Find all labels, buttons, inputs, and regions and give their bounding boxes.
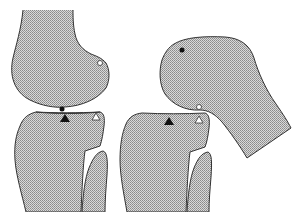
femur-extension <box>12 10 109 107</box>
filled-circle-marker <box>60 107 65 112</box>
open-circle-marker <box>98 61 103 66</box>
extension-panel <box>12 10 109 212</box>
fibula-extension <box>82 151 107 212</box>
flexion-panel <box>120 37 291 212</box>
filled-circle-marker <box>180 48 185 53</box>
fibula-flexion <box>187 152 212 212</box>
knee-diagram <box>0 0 302 212</box>
open-circle-marker <box>197 105 202 110</box>
